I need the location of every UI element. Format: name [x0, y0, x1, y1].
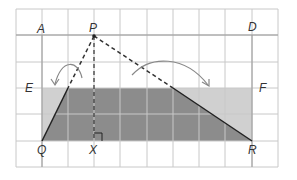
label-r: R: [248, 144, 257, 156]
label-e: E: [25, 82, 33, 94]
grid: [16, 9, 278, 167]
label-a: A: [37, 23, 45, 35]
label-f: F: [259, 82, 266, 94]
label-p: P: [89, 22, 97, 34]
label-d: D: [248, 21, 257, 33]
label-x: X: [89, 144, 97, 156]
label-q: Q: [37, 144, 46, 156]
right-rotation-arrow: [132, 61, 209, 86]
left-rotation-arrow: [51, 64, 82, 85]
